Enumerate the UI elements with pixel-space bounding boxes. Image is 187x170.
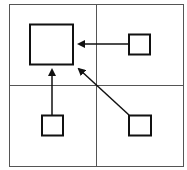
arrow-bottom-right-to-large [79, 69, 129, 115]
small-square-bottom-right [129, 116, 151, 136]
large-square [30, 25, 73, 65]
quadrant-diagram [0, 0, 187, 170]
small-square-top-right [129, 35, 150, 55]
small-square-bottom-left [42, 116, 63, 136]
